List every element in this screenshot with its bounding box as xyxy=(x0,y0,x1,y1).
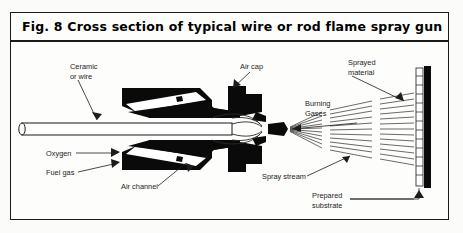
spray-stream-segment-3 xyxy=(380,93,414,165)
label-prepared-substrate-line2: substrate xyxy=(312,201,342,210)
label-ceramic-or-wire-line1: Ceramic xyxy=(70,62,98,71)
figure-root: Fig. 8 Cross section of typical wire or … xyxy=(0,0,463,233)
label-sprayed-material-line2: material xyxy=(348,68,375,77)
label-fuel-gas: Fuel gas xyxy=(46,168,75,177)
flame-spray-gun-diagram: Ceramic or wire Air cap Sprayed material… xyxy=(0,0,463,233)
label-spray-stream: Spray stream xyxy=(262,172,306,181)
sprayed-material-coating xyxy=(416,68,423,186)
label-oxygen: Oxygen xyxy=(46,149,71,158)
label-sprayed-material-line1: Sprayed xyxy=(348,58,376,67)
flame-core xyxy=(268,122,288,136)
label-air-channel: Air channel xyxy=(121,182,158,191)
gun-body-lower xyxy=(122,140,240,170)
ceramic-or-wire-rod xyxy=(19,123,232,135)
prepared-substrate xyxy=(424,66,431,188)
air-cap xyxy=(228,86,266,172)
label-burning-gases-line1: Burning xyxy=(305,99,330,108)
spray-stream-segment-2 xyxy=(330,101,372,158)
label-ceramic-or-wire-line2: or wire xyxy=(70,72,92,81)
label-prepared-substrate-line1: Prepared xyxy=(312,191,342,200)
gun-body-upper xyxy=(122,88,240,118)
label-burning-gases-line2: Gases xyxy=(305,109,327,118)
label-air-cap: Air cap xyxy=(240,62,263,71)
